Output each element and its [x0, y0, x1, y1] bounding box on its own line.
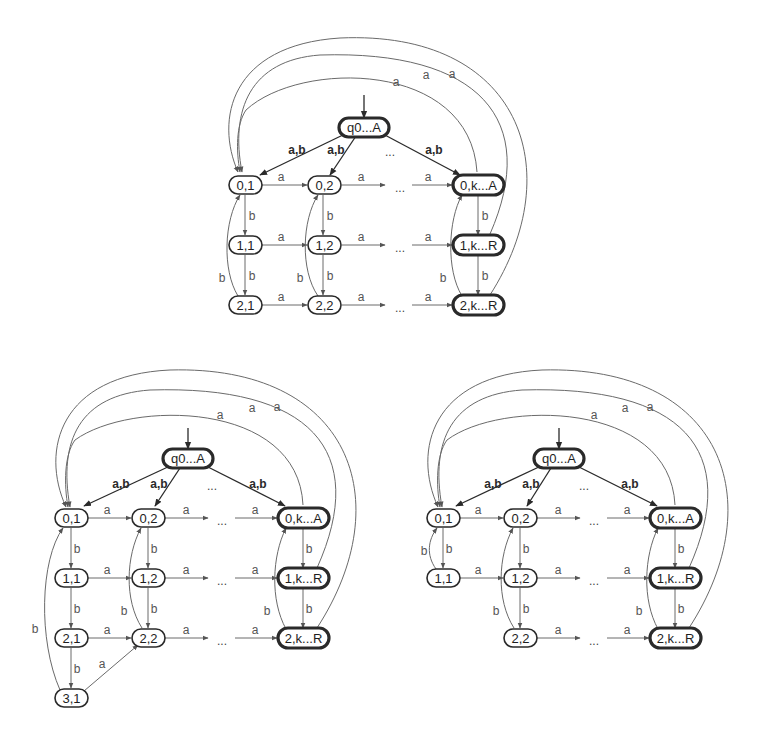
label-b: b: [440, 271, 447, 285]
label-a: a: [183, 563, 190, 577]
edge-1k-to-01: [67, 390, 336, 568]
state-2-2: 2,2: [504, 629, 537, 647]
label-b: b: [121, 604, 128, 618]
label-ab: a,b: [522, 477, 539, 491]
label-b: b: [493, 604, 500, 618]
label-ab: a,b: [150, 477, 167, 491]
label-b: b: [249, 269, 256, 283]
svg-text:0,k...A: 0,k...A: [285, 511, 322, 526]
ellipsis: ...: [395, 181, 405, 195]
svg-text:2,k...R: 2,k...R: [460, 298, 498, 313]
state-2-k: 2,k...R: [278, 628, 329, 648]
state-0-1: 0,1: [427, 509, 460, 527]
svg-text:2,2: 2,2: [139, 631, 157, 646]
svg-text:0,1: 0,1: [434, 511, 452, 526]
edge-1k-to-01: [439, 390, 708, 568]
state-0-1: 0,1: [229, 176, 262, 194]
ellipsis: ...: [579, 479, 589, 493]
label-a: a: [252, 623, 259, 637]
svg-text:2,2: 2,2: [315, 298, 333, 313]
state-1-1: 1,1: [229, 236, 262, 254]
state-0-k: 0,k...A: [453, 175, 504, 195]
state-2-1: 2,1: [55, 629, 88, 647]
label-b: b: [151, 602, 158, 616]
svg-text:0,k...A: 0,k...A: [657, 511, 694, 526]
label-a: a: [425, 230, 432, 244]
state-q0: q0...A: [339, 118, 389, 137]
svg-text:2,2: 2,2: [511, 631, 529, 646]
svg-text:1,2: 1,2: [511, 571, 529, 586]
label-a: a: [217, 408, 224, 422]
label-b: b: [482, 269, 489, 283]
state-diagram-canvas: a a a a,b a,b ... a,b a a a ... a a a ..…: [0, 0, 764, 732]
label-a: a: [624, 503, 631, 517]
label-b: b: [523, 602, 530, 616]
state-2-k: 2,k...R: [650, 628, 701, 648]
label-b: b: [678, 602, 685, 616]
label-a: a: [624, 563, 631, 577]
svg-text:2,1: 2,1: [236, 298, 254, 313]
svg-text:1,2: 1,2: [315, 238, 333, 253]
label-a: a: [622, 401, 629, 415]
state-1-2: 1,2: [308, 236, 341, 254]
label-a: a: [358, 170, 365, 184]
label-a: a: [278, 290, 285, 304]
state-1-2: 1,2: [132, 569, 165, 587]
ellipsis: ...: [217, 514, 227, 528]
label-b: b: [74, 542, 81, 556]
ellipsis: ...: [395, 241, 405, 255]
label-a: a: [104, 623, 111, 637]
label-b: b: [74, 662, 81, 676]
state-1-k: 1,k...R: [278, 568, 329, 588]
ellipsis: ...: [207, 479, 217, 493]
label-b: b: [678, 542, 685, 556]
state-3-1: 3,1: [55, 689, 88, 707]
label-a: a: [252, 503, 259, 517]
label-a: a: [183, 503, 190, 517]
label-b: b: [636, 604, 643, 618]
label-b: b: [421, 544, 428, 558]
edge-b-back-11-to-01: [429, 528, 437, 569]
svg-text:2,k...R: 2,k...R: [657, 631, 695, 646]
label-a: a: [423, 68, 430, 82]
label-a: a: [104, 563, 111, 577]
edge-q0-to-0k: [206, 466, 285, 506]
state-1-k: 1,k...R: [453, 235, 504, 255]
label-a: a: [358, 290, 365, 304]
ellipsis: ...: [589, 634, 599, 648]
svg-text:0,k...A: 0,k...A: [460, 178, 497, 193]
state-2-2: 2,2: [308, 296, 341, 314]
state-1-2: 1,2: [504, 569, 537, 587]
label-a: a: [104, 503, 111, 517]
svg-text:2,k...R: 2,k...R: [285, 631, 323, 646]
label-a: a: [393, 75, 400, 89]
svg-text:0,2: 0,2: [315, 178, 333, 193]
state-0-2: 0,2: [308, 176, 341, 194]
label-ab: a,b: [288, 143, 305, 157]
svg-text:q0...A: q0...A: [347, 120, 381, 135]
state-1-k: 1,k...R: [650, 568, 701, 588]
label-a: a: [647, 400, 654, 414]
label-ab: a,b: [112, 477, 129, 491]
label-ab: a,b: [621, 477, 638, 491]
label-a: a: [449, 67, 456, 81]
ellipsis: ...: [217, 634, 227, 648]
ellipsis: ...: [589, 574, 599, 588]
state-0-k: 0,k...A: [278, 508, 329, 528]
edge-1k-to-01: [239, 55, 507, 234]
label-b: b: [219, 271, 226, 285]
state-2-2: 2,2: [132, 629, 165, 647]
svg-text:0,2: 0,2: [139, 511, 157, 526]
svg-text:1,k...R: 1,k...R: [657, 571, 695, 586]
label-a: a: [555, 503, 562, 517]
label-a: a: [278, 170, 285, 184]
label-b: b: [151, 542, 158, 556]
label-b: b: [264, 604, 271, 618]
ellipsis: ...: [589, 514, 599, 528]
label-a: a: [425, 290, 432, 304]
label-a: a: [183, 623, 190, 637]
label-a: a: [425, 170, 432, 184]
svg-text:3,1: 3,1: [62, 691, 80, 706]
label-a: a: [99, 657, 106, 671]
svg-text:1,1: 1,1: [236, 238, 254, 253]
